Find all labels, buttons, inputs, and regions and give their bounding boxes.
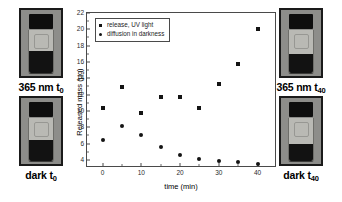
y-tick-label: 10 [77, 108, 87, 115]
caption-main-text: 365 nm t [277, 81, 318, 93]
data-point [139, 133, 143, 137]
photo-caption-365nm-t40: 365 nm t40 [277, 81, 326, 93]
data-point [217, 82, 221, 86]
y-tick-mark [87, 159, 90, 160]
data-point [120, 124, 124, 128]
y-tick-label: 18 [77, 42, 87, 49]
legend-marker-icon [99, 24, 102, 27]
y-tick-mark [87, 78, 90, 79]
y-axis-label: Released mass (µg) [76, 37, 84, 167]
y-tick-minor [87, 135, 89, 136]
data-point [197, 106, 201, 110]
vial-liquid [289, 54, 313, 73]
photo-caption-365nm-t0: 365 nm t0 [19, 81, 64, 93]
y-tick-minor [87, 21, 89, 22]
caption-sub-text: 0 [53, 174, 57, 183]
y-tick-mark [87, 94, 90, 95]
vial-body [288, 118, 314, 162]
vial-photo-dark-t0 [19, 96, 63, 166]
data-point [139, 111, 143, 115]
y-tick-label: 14 [77, 75, 87, 82]
y-tick-minor [87, 53, 89, 54]
data-point [236, 160, 240, 164]
x-tick-minor [238, 164, 239, 166]
y-tick-minor [87, 37, 89, 38]
photo-caption-dark-t40: dark t40 [283, 169, 318, 181]
y-tick-label: 8 [80, 124, 87, 131]
vial-photo-dark-t40 [279, 96, 323, 166]
y-tick-mark [87, 143, 90, 144]
legend-item[interactable]: release, UV light [99, 21, 164, 30]
vial-glare [294, 34, 309, 49]
photo-caption-dark-t0: dark t0 [25, 169, 56, 181]
y-tick-minor [87, 70, 89, 71]
x-axis-label: time (min) [86, 182, 276, 191]
caption-main-text: dark t [25, 169, 52, 181]
y-tick-minor [87, 86, 89, 87]
y-tick-mark [87, 110, 90, 111]
y-tick-mark [87, 61, 90, 62]
y-tick-minor [87, 102, 89, 103]
data-point [178, 95, 182, 99]
data-point [101, 106, 105, 110]
data-point [178, 153, 182, 157]
data-point [236, 62, 240, 66]
data-point [120, 85, 124, 89]
vial-glare [34, 122, 49, 137]
data-point [101, 138, 105, 142]
vial-cap-icon [29, 102, 53, 117]
vial-glare [34, 34, 49, 49]
y-tick-mark [87, 29, 90, 30]
data-point [256, 162, 260, 166]
data-point [256, 27, 260, 31]
vial-graphic [288, 102, 314, 162]
caption-main-text: 365 nm t [19, 81, 60, 93]
data-point [159, 95, 163, 99]
x-tick-minor [199, 164, 200, 166]
scatter-chart: Released mass (µg) 46810121416182022 010… [60, 4, 282, 200]
vial-liquid [289, 144, 313, 161]
x-tick-label: 30 [215, 166, 222, 177]
legend-marker-icon [99, 33, 102, 36]
y-tick-mark [87, 127, 90, 128]
vial-liquid [29, 140, 53, 162]
x-tick-label: 0 [101, 166, 105, 177]
vial-body [28, 118, 54, 162]
y-tick-mark [87, 45, 90, 46]
chart-legend: release, UV lightdiffusion in darkness [95, 18, 170, 42]
vial-photo-365nm-t40 [279, 8, 323, 78]
y-tick-minor [87, 119, 89, 120]
caption-sub-text: 40 [318, 86, 326, 95]
vial-glare [294, 122, 309, 137]
legend-label: release, UV light [107, 22, 153, 28]
vial-cap-icon [29, 14, 53, 29]
y-tick-label: 22 [77, 10, 87, 17]
caption-sub-text: 40 [311, 174, 319, 183]
vial-graphic [28, 102, 54, 162]
vial-photo-365nm-t0 [19, 8, 63, 78]
legend-label: diffusion in darkness [107, 31, 164, 37]
y-tick-minor [87, 151, 89, 152]
y-tick-label: 20 [77, 26, 87, 33]
y-tick-mark [87, 13, 90, 14]
plot-area: 46810121416182022 010203040 release, UV … [86, 12, 276, 167]
vial-graphic [288, 14, 314, 74]
caption-main-text: dark t [283, 169, 310, 181]
x-tick-label: 10 [138, 166, 145, 177]
y-tick-label: 4 [80, 157, 87, 164]
vial-cap-icon [289, 102, 313, 117]
data-point [197, 157, 201, 161]
figure-panel: 365 nm t0 dark t0 365 nm t40 [0, 0, 342, 202]
vial-body [28, 30, 54, 74]
x-tick-minor [121, 164, 122, 166]
x-tick-label: 40 [254, 166, 261, 177]
vial-body [288, 30, 314, 74]
x-tick-minor [160, 164, 161, 166]
y-tick-label: 6 [80, 140, 87, 147]
legend-item[interactable]: diffusion in darkness [99, 30, 164, 39]
y-tick-label: 16 [77, 59, 87, 66]
data-point [217, 159, 221, 163]
vial-liquid [29, 51, 53, 73]
vial-graphic [28, 14, 54, 74]
vial-cap-icon [289, 14, 313, 29]
